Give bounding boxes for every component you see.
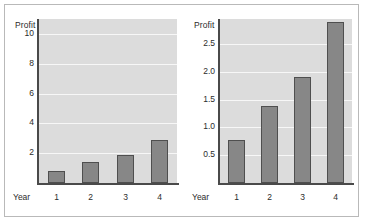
bar (228, 140, 245, 183)
y-tick-label: 2.5 (203, 38, 215, 48)
bar (82, 162, 99, 183)
plot-area (220, 19, 352, 183)
gridline (39, 94, 177, 95)
y-tick-label: 4 (29, 117, 34, 127)
x-tick-label: 4 (150, 192, 170, 202)
y-tick-label: 8 (29, 58, 34, 68)
bar (151, 140, 168, 183)
y-tick-label: 0.5 (203, 149, 215, 159)
x-tick-label: 4 (326, 192, 346, 202)
figure-frame: Profit Year 2468101234 Profit Year 0.51.… (4, 4, 359, 217)
x-tick-label: 3 (116, 192, 136, 202)
y-axis-line (218, 19, 220, 185)
x-tick-label: 3 (293, 192, 313, 202)
y-tick-label: 2.0 (203, 66, 215, 76)
y-tick-label: 1.0 (203, 121, 215, 131)
x-axis-line (37, 183, 179, 185)
gridline (39, 34, 177, 35)
y-tick-label: 6 (29, 88, 34, 98)
gridline (39, 64, 177, 65)
x-axis-label-prefix: Year (192, 192, 209, 202)
bar-chart-left: Profit Year 2468101234 (5, 5, 182, 218)
bar (294, 77, 311, 183)
bar (48, 171, 65, 183)
y-tick-label: 2 (29, 147, 34, 157)
bar (117, 155, 134, 183)
x-tick-label: 1 (227, 192, 247, 202)
gridline (39, 123, 177, 124)
x-tick-label: 2 (81, 192, 101, 202)
plot-area (39, 19, 177, 183)
x-tick-label: 2 (260, 192, 280, 202)
y-tick-label: 1.5 (203, 94, 215, 104)
y-axis-title: Profit (194, 20, 214, 30)
bar (261, 106, 278, 183)
y-tick-label: 10 (25, 28, 34, 38)
x-tick-label: 1 (47, 192, 67, 202)
x-axis-line (218, 183, 354, 185)
y-axis-line (37, 19, 39, 185)
bar-chart-right: Profit Year 0.51.01.52.02.51234 (182, 5, 359, 218)
bar (327, 22, 344, 183)
x-axis-label-prefix: Year (13, 192, 30, 202)
